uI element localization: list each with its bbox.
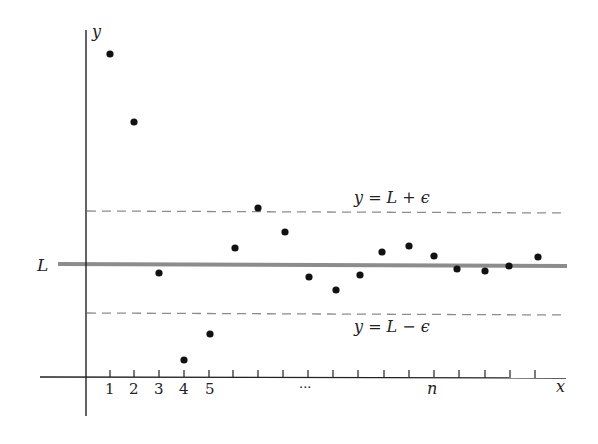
tick-label-n: n <box>427 379 437 398</box>
x-axis-label: x <box>556 377 565 396</box>
upper-band-label: y = L + ϵ <box>353 188 430 207</box>
sequence-convergence-chart: y x L y = L + ϵ y = L − ϵ 1 2 3 4 5 ··· … <box>0 0 598 444</box>
tick-label-4: 4 <box>179 380 189 398</box>
data-point <box>155 269 162 276</box>
data-point <box>505 262 512 269</box>
tick-label-1: 1 <box>105 380 115 398</box>
sequence-points <box>106 50 541 363</box>
data-point <box>206 330 213 337</box>
data-point <box>106 50 113 57</box>
lower-band-label: y = L − ϵ <box>353 317 430 336</box>
data-point <box>130 118 137 125</box>
data-point <box>332 286 339 293</box>
data-point <box>405 242 412 249</box>
data-point <box>453 265 460 272</box>
x-axis <box>40 377 566 378</box>
limit-line <box>58 264 567 266</box>
data-point <box>180 356 187 363</box>
tick-label-5: 5 <box>205 380 215 398</box>
upper-epsilon-line <box>87 211 567 213</box>
data-point <box>481 267 488 274</box>
data-point <box>281 228 288 235</box>
data-point <box>231 244 238 251</box>
lower-epsilon-line <box>87 313 567 315</box>
tick-label-2: 2 <box>129 380 139 398</box>
data-point <box>356 271 363 278</box>
data-point <box>430 252 437 259</box>
tick-label-3: 3 <box>154 380 164 398</box>
data-point <box>254 204 261 211</box>
y-axis-label: y <box>91 22 102 41</box>
tick-ellipsis: ··· <box>299 380 311 395</box>
data-point <box>378 248 385 255</box>
limit-label: L <box>36 255 48 275</box>
data-point <box>534 253 541 260</box>
data-point <box>305 273 312 280</box>
